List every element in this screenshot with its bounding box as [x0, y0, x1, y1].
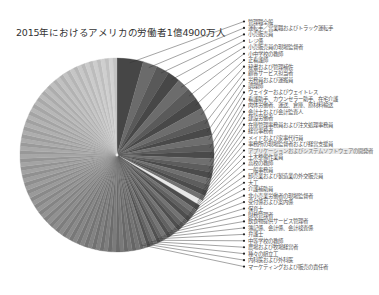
leader-dot	[243, 156, 245, 158]
leader-line	[151, 242, 244, 248]
legend-label: 小売販売員の現場監督者	[248, 44, 303, 50]
leader-line	[210, 99, 244, 155]
leader-line	[161, 34, 244, 73]
legend-label: 一般事務員	[248, 167, 273, 173]
leader-dot	[243, 91, 245, 93]
leader-dot	[243, 240, 245, 242]
leader-dot	[243, 20, 245, 22]
leader-line	[149, 28, 244, 68]
legend-label: 大工	[248, 180, 258, 186]
leader-dot	[243, 266, 245, 268]
leader-dot	[243, 195, 245, 197]
legend-label: 労務員および運搬員	[248, 77, 293, 83]
legend-label: 小中学校の教師	[248, 51, 283, 57]
legend-label: 卸売業および製造業の外交販売員	[248, 173, 323, 179]
legend-label: 小売販売員	[248, 31, 273, 37]
leader-dot	[243, 78, 245, 80]
legend-label: 正看護師	[248, 57, 268, 63]
leader-line	[201, 67, 244, 115]
legend-label: 介護補助員	[248, 186, 273, 192]
legend-label: 秘書および管理補佐	[248, 64, 293, 70]
legend-label: 顧客サービス担当者	[248, 70, 293, 76]
legend-label: 弁護士	[248, 231, 263, 237]
leader-dot	[243, 246, 245, 248]
leader-dot	[243, 85, 245, 87]
leader-dot	[243, 188, 245, 190]
leader-dot	[243, 162, 245, 164]
leader-dot	[243, 169, 245, 171]
leader-dot	[243, 201, 245, 203]
legend-label: 非小売業労働者の現場監督者	[248, 193, 313, 199]
legend-label: メイドおよび家事代行員	[248, 135, 303, 141]
leader-dot	[243, 66, 245, 68]
leader-dot	[243, 227, 245, 229]
legend-label: 経営事務者	[248, 128, 273, 134]
leader-dot	[243, 59, 245, 61]
leader-dot	[243, 253, 245, 255]
leader-line	[172, 41, 244, 80]
legend-label: 事務所の現場監督者および経営支援員	[248, 141, 333, 147]
leader-line	[181, 47, 244, 87]
leader-dot	[243, 233, 245, 235]
leader-line	[210, 105, 244, 162]
leader-dot	[243, 137, 245, 139]
leader-dot	[243, 207, 245, 209]
leader-dot	[243, 98, 245, 100]
legend-label: ウェイターおよびウェイトレス	[248, 89, 318, 95]
legend-label: 高校の教師	[248, 160, 273, 166]
legend-label: 会計士および会計監査人	[248, 109, 303, 115]
legend-label: アプリケーションおよびシステムソフトウェアの開発者	[248, 148, 373, 154]
legend-label: 受付係および案内係	[248, 199, 293, 205]
legend-label: 建設労働者	[248, 115, 273, 121]
leader-dot	[243, 33, 245, 35]
leader-dot	[243, 149, 245, 151]
leader-dot	[243, 259, 245, 261]
leader-dot	[243, 111, 245, 113]
legend-label: 中等学校の教師	[248, 238, 283, 244]
legend-label: 簿記係、会計係、会計検査係	[248, 225, 313, 231]
legend-label: レジ係	[248, 38, 263, 44]
leader-dot	[243, 214, 245, 216]
leader-dot	[243, 220, 245, 222]
leader-dot	[243, 46, 245, 48]
leader-dot	[243, 130, 245, 132]
legend-label: マーケティングおよび販売の責任者	[248, 264, 328, 270]
leader-dot	[243, 124, 245, 126]
leader-line	[141, 245, 244, 267]
leader-dot	[243, 104, 245, 106]
leader-dot	[243, 143, 245, 145]
leader-dot	[243, 72, 245, 74]
leader-dot	[243, 182, 245, 184]
leader-dot	[243, 53, 245, 55]
legend-label: 在庫管理事務員および注文処理事務員	[248, 122, 333, 128]
leader-dot	[243, 175, 245, 177]
leader-dot	[243, 40, 245, 42]
leader-dot	[243, 117, 245, 119]
legend-label: 種々の組立工	[248, 251, 278, 257]
pie-center	[116, 154, 119, 157]
legend-label: 農場および牧場経営者	[248, 244, 298, 250]
legend-label: 保育士	[248, 206, 263, 212]
leader-dot	[243, 27, 245, 29]
legend-label: 肉体労働者、運送、倉庫、原材料輸送	[248, 102, 333, 108]
legend-label: 内科医および外科医	[248, 257, 293, 263]
legend-label: 看護助手、カウンセラー助手、在宅介護	[248, 96, 338, 102]
leader-line	[154, 240, 244, 241]
legend-label: 管理職全般	[248, 19, 273, 25]
leader-line	[209, 86, 244, 140]
leader-line	[189, 54, 244, 96]
legend-label: 飲食物提供サービス管理者	[248, 218, 308, 224]
